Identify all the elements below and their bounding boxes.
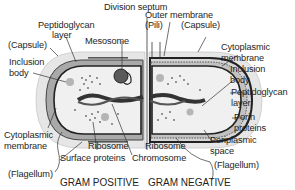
label-surface-proteins: Surface proteins <box>60 153 125 163</box>
label-body-gn: body <box>230 75 250 85</box>
label-inclusion-gn: Inclusion <box>230 64 265 74</box>
label-mesosome: Mesosome <box>85 36 129 46</box>
label-capsule-gn: (Capsule) <box>181 20 220 30</box>
caption-gram-negative: GRAM NEGATIVE <box>148 177 231 188</box>
label-inclusion-gp: Inclusion <box>9 57 44 67</box>
label-flagellum-gp: (Flagellum) <box>8 169 53 179</box>
label-ribosome-gp: Ribosome <box>88 141 129 151</box>
label-cytoplasmic-gn: Cytoplasmic <box>221 42 270 52</box>
label-capsule-gp: (Capsule) <box>8 40 47 50</box>
label-peptidoglycan-gp: Peptidoglycan <box>38 20 94 30</box>
label-layer-gn: layer <box>231 98 250 108</box>
label-periplasmic: Periplasmic <box>210 135 256 145</box>
label-flagellum-gn: (Flagellum) <box>214 160 259 170</box>
label-cytoplasmic-gp: Cytoplasmic <box>4 130 53 140</box>
label-proteins: proteins <box>234 123 266 133</box>
label-pili: (Pili) <box>145 20 163 30</box>
label-porin: Porin <box>234 112 255 122</box>
label-membrane-gp: membrane <box>4 141 47 151</box>
label-chromosome: Chromosome <box>132 153 186 163</box>
label-membrane-gn: membrane <box>221 53 264 63</box>
label-outer-membrane: Outer membrane <box>145 10 213 20</box>
label-ribosome-gn: Ribosome <box>145 141 186 151</box>
caption-gram-positive: GRAM POSITIVE <box>60 177 139 188</box>
label-layer-gp: layer <box>52 30 71 40</box>
label-peptidoglycan-gn: Peptidoglycan <box>231 87 287 97</box>
label-space: space <box>210 146 234 156</box>
label-body-gp: body <box>9 68 29 78</box>
